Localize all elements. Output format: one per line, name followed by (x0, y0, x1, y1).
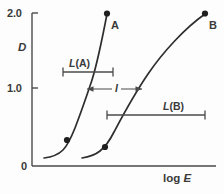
latitude-a-label-plain: (A) (75, 57, 90, 69)
curve-a-path (44, 14, 107, 158)
curve-b-path (82, 14, 205, 158)
x-axis-title-italic: E (183, 172, 191, 184)
latitude-b-label: L(B) (163, 101, 184, 112)
latitude-b-label-plain: (B) (169, 100, 184, 112)
latitude-a-label: L(A) (69, 58, 90, 69)
y-tick-label-1: 1.0 (7, 83, 22, 94)
x-axis-title-plain: log (163, 172, 180, 184)
y-tick-label-0: 0 (21, 161, 27, 172)
curve-a-toe-marker (64, 137, 70, 143)
curve-b-label: B (209, 20, 217, 31)
y-axis-title: D (18, 42, 26, 54)
curve-a-label: A (111, 20, 119, 31)
characteristic-curve-figure: 2.0 1.0 0 D log E A B L(A) L(B) I (0, 0, 224, 194)
curve-a-shoulder-marker (104, 10, 110, 16)
curve-b-toe-marker (102, 144, 108, 150)
y-tick-label-2: 2.0 (7, 8, 22, 19)
curve-b-shoulder-marker (202, 10, 208, 16)
x-axis-title: log E (163, 173, 191, 185)
speed-separation-label: I (112, 83, 121, 94)
